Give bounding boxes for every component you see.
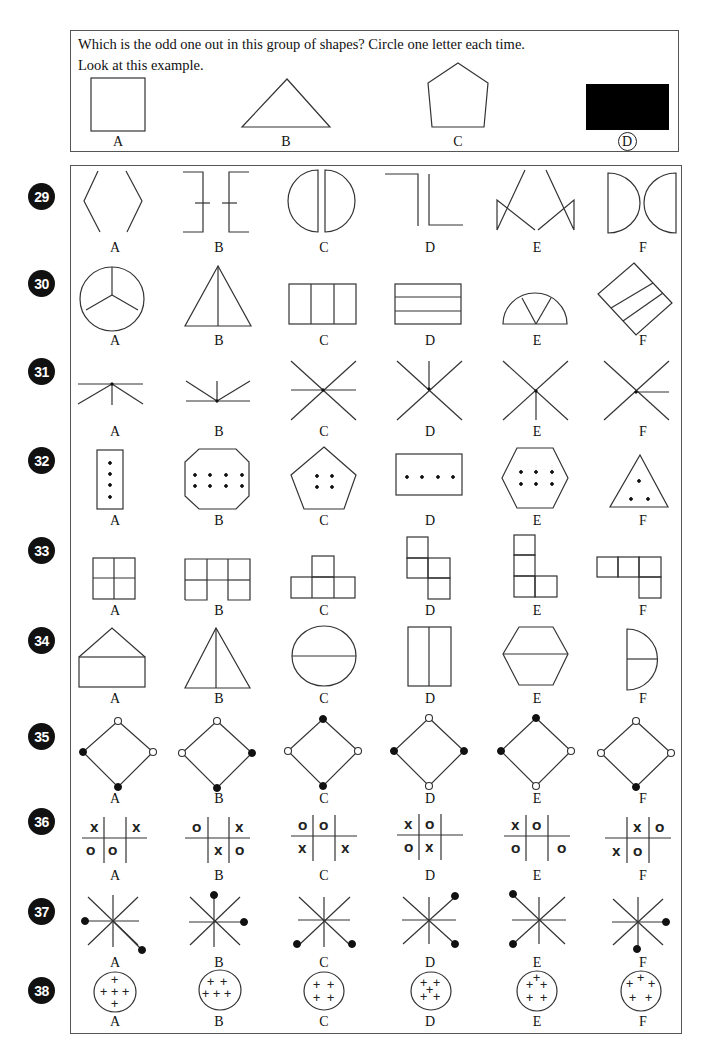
q37-option-b[interactable]: B bbox=[204, 955, 234, 971]
svg-text:+: + bbox=[111, 997, 118, 1011]
q34-option-a[interactable]: A bbox=[100, 691, 130, 707]
svg-text:O: O bbox=[319, 820, 328, 833]
q36-option-f[interactable]: F bbox=[628, 868, 658, 884]
svg-text:X: X bbox=[612, 846, 621, 859]
svg-text:X: X bbox=[235, 822, 244, 835]
q33-option-a[interactable]: A bbox=[100, 603, 130, 619]
q29-option-b[interactable]: B bbox=[204, 240, 234, 256]
q33-option-b[interactable]: B bbox=[204, 603, 234, 619]
q34-e-shape bbox=[503, 627, 568, 685]
q30-option-a[interactable]: A bbox=[100, 333, 130, 349]
q37-option-d[interactable]: D bbox=[415, 955, 445, 971]
q31-option-a[interactable]: A bbox=[100, 424, 130, 440]
svg-text:+: + bbox=[327, 991, 334, 1005]
q34-option-b[interactable]: B bbox=[204, 691, 234, 707]
q38-option-f[interactable]: F bbox=[628, 1014, 658, 1030]
example-option-c[interactable]: C bbox=[443, 134, 473, 150]
q36-option-c[interactable]: C bbox=[309, 868, 339, 884]
svg-text:O: O bbox=[298, 820, 307, 833]
q36-option-b[interactable]: B bbox=[204, 868, 234, 884]
q33-option-c[interactable]: C bbox=[309, 603, 339, 619]
q38-option-c[interactable]: C bbox=[309, 1014, 339, 1030]
q31-option-c[interactable]: C bbox=[309, 424, 339, 440]
example-c-pentagon-shape bbox=[428, 63, 488, 127]
q33-e-shape bbox=[514, 535, 557, 597]
q29-e-shape bbox=[497, 170, 574, 230]
q29-option-d[interactable]: D bbox=[415, 240, 445, 256]
svg-text:O: O bbox=[633, 846, 642, 859]
q32-option-f[interactable]: F bbox=[628, 513, 658, 529]
example-option-d-circled[interactable]: D bbox=[612, 132, 642, 151]
q34-option-f[interactable]: F bbox=[628, 691, 658, 707]
q29-option-a[interactable]: A bbox=[100, 240, 130, 256]
q34-option-e[interactable]: E bbox=[522, 691, 552, 707]
q33-b-shape bbox=[185, 559, 250, 600]
svg-text:X: X bbox=[404, 819, 413, 832]
q38-option-b[interactable]: B bbox=[204, 1014, 234, 1030]
q37-option-c[interactable]: C bbox=[309, 955, 339, 971]
q38-option-d[interactable]: D bbox=[415, 1014, 445, 1030]
q30-option-f[interactable]: F bbox=[628, 333, 658, 349]
svg-text:+: + bbox=[433, 990, 440, 1004]
q32-option-c[interactable]: C bbox=[309, 513, 339, 529]
q37-f-shape bbox=[612, 897, 670, 953]
svg-text:+: + bbox=[648, 977, 655, 991]
q33-option-f[interactable]: F bbox=[628, 603, 658, 619]
q32-option-b[interactable]: B bbox=[204, 513, 234, 529]
example-option-b[interactable]: B bbox=[271, 134, 301, 150]
q29-option-c[interactable]: C bbox=[309, 240, 339, 256]
svg-text:X: X bbox=[341, 843, 350, 856]
svg-text:+: + bbox=[100, 985, 107, 999]
q29-option-e[interactable]: E bbox=[522, 240, 552, 256]
q35-option-c[interactable]: C bbox=[309, 791, 339, 807]
q32-f-shape bbox=[610, 455, 668, 507]
q29-option-f[interactable]: F bbox=[628, 240, 658, 256]
q30-option-c[interactable]: C bbox=[309, 333, 339, 349]
svg-text:+: + bbox=[327, 978, 334, 992]
q38-option-a[interactable]: A bbox=[100, 1014, 130, 1030]
q35-option-f[interactable]: F bbox=[628, 791, 658, 807]
q30-a-shape bbox=[80, 267, 144, 331]
q35-option-d[interactable]: D bbox=[415, 791, 445, 807]
q32-option-a[interactable]: A bbox=[100, 513, 130, 529]
q34-a-shape bbox=[79, 628, 145, 687]
q36-option-e[interactable]: E bbox=[522, 868, 552, 884]
q37-option-e[interactable]: E bbox=[522, 955, 552, 971]
q32-option-d[interactable]: D bbox=[415, 513, 445, 529]
svg-text:X: X bbox=[90, 822, 99, 835]
q30-option-e[interactable]: E bbox=[522, 333, 552, 349]
q32-option-e[interactable]: E bbox=[522, 513, 552, 529]
svg-text:+: + bbox=[122, 985, 129, 999]
q33-option-d[interactable]: D bbox=[415, 603, 445, 619]
q30-option-b[interactable]: B bbox=[204, 333, 234, 349]
svg-text:+: + bbox=[540, 978, 547, 992]
q34-option-c[interactable]: C bbox=[309, 691, 339, 707]
q31-option-b[interactable]: B bbox=[204, 424, 234, 440]
q35-option-b[interactable]: B bbox=[204, 791, 234, 807]
q38-option-e[interactable]: E bbox=[522, 1014, 552, 1030]
q37-option-f[interactable]: F bbox=[628, 955, 658, 971]
svg-text:+: + bbox=[637, 971, 644, 985]
svg-text:O: O bbox=[108, 845, 117, 858]
q30-option-d[interactable]: D bbox=[415, 333, 445, 349]
q35-option-a[interactable]: A bbox=[100, 791, 130, 807]
svg-text:+: + bbox=[433, 976, 440, 990]
q34-d-shape bbox=[408, 627, 451, 686]
q31-option-e[interactable]: E bbox=[522, 424, 552, 440]
q35-option-e[interactable]: E bbox=[522, 791, 552, 807]
q36-option-a[interactable]: A bbox=[100, 868, 130, 884]
q31-d-shape bbox=[397, 361, 462, 420]
q36-option-d[interactable]: D bbox=[415, 868, 445, 884]
svg-text:+: + bbox=[526, 991, 533, 1005]
example-option-a[interactable]: A bbox=[103, 134, 133, 150]
q33-option-e[interactable]: E bbox=[522, 603, 552, 619]
q34-option-d[interactable]: D bbox=[415, 691, 445, 707]
svg-text:+: + bbox=[313, 991, 320, 1005]
svg-text:+: + bbox=[224, 987, 231, 1001]
q31-f-shape bbox=[604, 361, 669, 420]
q31-c-shape bbox=[291, 361, 356, 420]
q31-option-d[interactable]: D bbox=[415, 424, 445, 440]
q31-option-f[interactable]: F bbox=[628, 424, 658, 440]
q36-b-glyphs: O X X O bbox=[192, 822, 244, 858]
q37-option-a[interactable]: A bbox=[100, 955, 130, 971]
